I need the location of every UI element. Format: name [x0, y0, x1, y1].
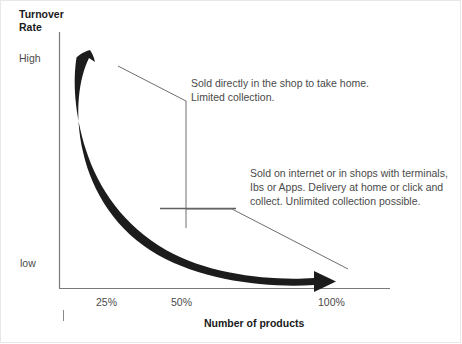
annotation-shop-line1: Sold directly in the shop to take home. [191, 77, 369, 89]
annotation-internet-line2: Ibs or Apps. Delivery at home or click a… [250, 181, 443, 193]
y-axis-title: TurnoverRate [19, 8, 64, 34]
chart-figure: TurnoverRate High low 25% 50% 100% Numbe… [0, 0, 462, 344]
y-tick-label-high: High [19, 52, 41, 66]
annotation-internet-line1: Sold on internet or in shops with termin… [250, 167, 448, 179]
y-axis-title-line1: Turnover [19, 8, 64, 20]
annotation-shop: Sold directly in the shop to take home.L… [191, 76, 369, 104]
y-axis-title-line2: Rate [19, 21, 42, 33]
x-tick-label-50: 50% [171, 296, 192, 310]
annotation-shop-line2: Limited collection. [191, 91, 274, 103]
leader-line-internet [186, 209, 348, 269]
leader-line-shop [118, 66, 186, 228]
annotation-internet: Sold on internet or in shops with termin… [250, 166, 448, 208]
annotation-internet-line3: collect. Unlimited collection possible. [250, 195, 420, 207]
x-tick-label-100: 100% [318, 296, 345, 310]
x-tick-label-25: 25% [96, 296, 117, 310]
x-axis-title: Number of products [204, 317, 304, 330]
y-tick-label-low: low [20, 257, 36, 271]
